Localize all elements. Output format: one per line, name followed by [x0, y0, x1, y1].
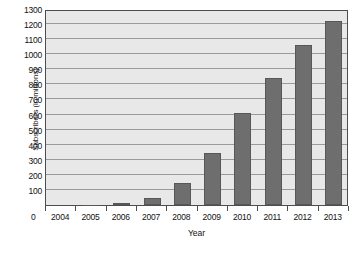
x-axis-tick-label: 2008 — [172, 212, 190, 222]
x-axis-tick-label: 2009 — [203, 212, 221, 222]
x-axis-tick-label: 2005 — [81, 212, 99, 222]
y-axis-tick-label: 600 — [16, 112, 42, 121]
x-axis-tick-mark — [287, 206, 288, 211]
x-axis-tick-label: 2011 — [264, 212, 281, 222]
bar-slot — [167, 11, 197, 205]
y-axis-tick-label: 1000 — [16, 51, 42, 60]
bar — [204, 153, 221, 205]
bar-slot — [228, 11, 258, 205]
bar-slot — [198, 11, 228, 205]
x-axis-tick-label: 2010 — [233, 212, 251, 222]
bar — [113, 203, 130, 205]
x-axis-tick-mark — [45, 206, 46, 211]
x-axis-tick-mark — [257, 206, 258, 211]
y-axis-tick-label: 1200 — [16, 21, 42, 30]
y-axis-zero-label: 0 — [31, 212, 36, 222]
bar-chart: Subscribers (in millions) 10020030040050… — [0, 0, 358, 255]
y-axis-tick-label: 100 — [16, 187, 42, 196]
y-axis-tick-label: 1300 — [16, 6, 42, 15]
bar-slot — [288, 11, 318, 205]
x-axis-tick-mark — [197, 206, 198, 211]
bar-slot — [137, 11, 167, 205]
x-axis-tick-mark — [106, 206, 107, 211]
bar — [325, 21, 342, 205]
x-axis-tick-label: 2006 — [112, 212, 130, 222]
y-axis-tick-labels: 1002003004005006007008009001000110012001… — [12, 0, 42, 210]
y-axis-tick-label: 200 — [16, 172, 42, 181]
bar-slot — [258, 11, 288, 205]
y-axis-tick-label: 400 — [16, 142, 42, 151]
bar — [234, 113, 251, 205]
x-axis-title: Year — [45, 228, 348, 238]
y-axis-tick-label: 700 — [16, 96, 42, 105]
x-axis-tick-mark — [348, 206, 349, 211]
y-axis-tick-label: 500 — [16, 127, 42, 136]
x-axis-tick-mark — [75, 206, 76, 211]
x-axis-tick-labels: 2004200520062007200820092010201120122013 — [45, 212, 348, 226]
y-axis-tick-label: 800 — [16, 81, 42, 90]
x-axis-tick-label: 2013 — [324, 212, 342, 222]
x-axis-tick-mark — [318, 206, 319, 211]
x-axis-tick-mark — [227, 206, 228, 211]
x-axis-tick-mark — [136, 206, 137, 211]
x-axis-tick-mark — [166, 206, 167, 211]
y-axis-tick-label: 1100 — [16, 36, 42, 45]
x-axis-tick-label: 2007 — [142, 212, 160, 222]
x-axis-tick-label: 2004 — [51, 212, 69, 222]
y-axis-tick-label: 300 — [16, 157, 42, 166]
bar-slot — [319, 11, 349, 205]
bar — [295, 45, 312, 205]
bar — [174, 183, 191, 205]
y-axis-tick-label: 900 — [16, 66, 42, 75]
bar — [144, 198, 161, 205]
plot-area — [45, 10, 348, 206]
bar — [265, 78, 282, 205]
x-axis-tick-label: 2012 — [293, 212, 311, 222]
bar-slot — [46, 11, 76, 205]
bar-slot — [76, 11, 106, 205]
bar-series — [46, 11, 347, 205]
bar-slot — [107, 11, 137, 205]
